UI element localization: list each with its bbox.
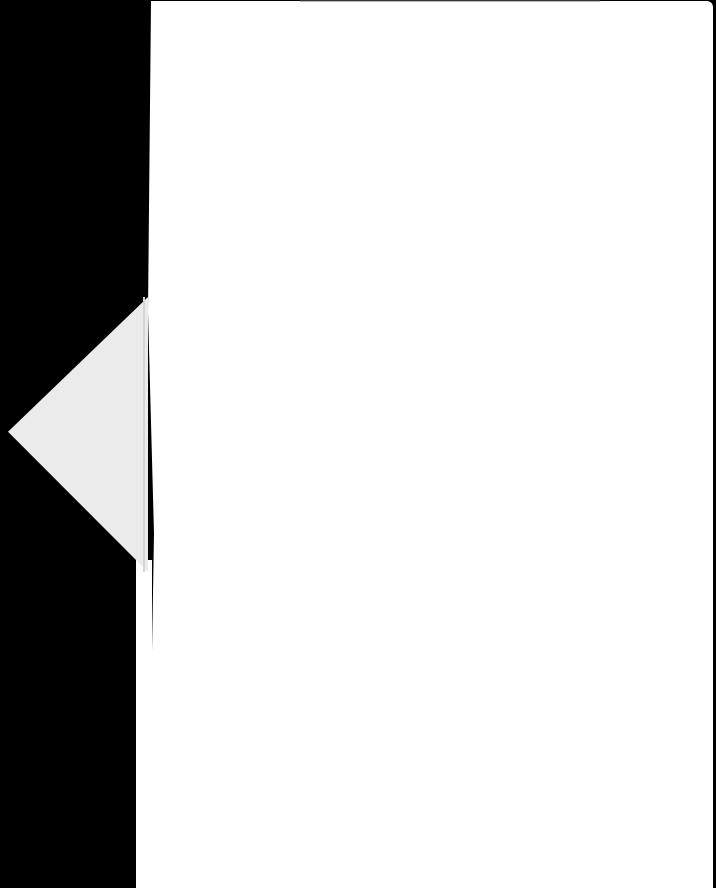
blank-paper-sheet (148, 1, 713, 888)
top-edge-shadow (300, 0, 600, 2)
paper-sheet-lower-edge (136, 560, 152, 888)
fold-crease-line (143, 297, 145, 572)
